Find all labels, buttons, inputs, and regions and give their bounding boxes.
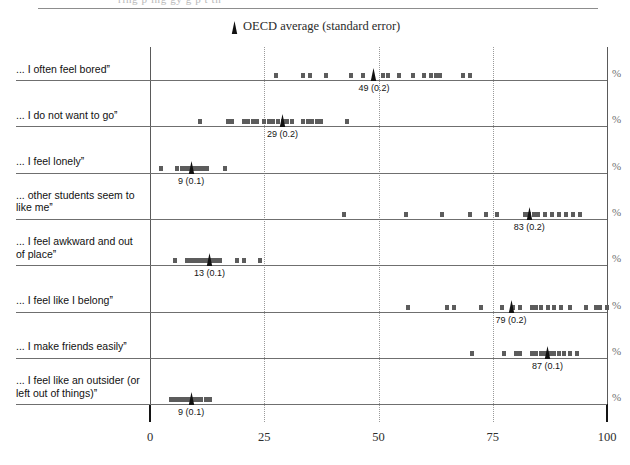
data-point: [310, 119, 314, 124]
unit-label-percent: %: [612, 67, 621, 79]
chart-legend: OECD average (standard error): [231, 19, 400, 34]
data-point: [564, 212, 568, 217]
row-label: ... I feel like an outsider (or left out…: [16, 374, 144, 399]
unit-label-percent: %: [612, 345, 621, 357]
data-point: [539, 305, 543, 310]
data-point: [495, 212, 499, 217]
row-label: ... I do not want to goˮ: [16, 109, 144, 122]
data-point: [349, 73, 353, 78]
data-point: [422, 73, 426, 78]
row-label: ... I feel lonelyˮ: [16, 155, 144, 168]
data-point: [578, 212, 582, 217]
axis-line-left: [150, 47, 151, 422]
oecd-average-label: 29 (0.2): [267, 129, 298, 139]
oecd-average-marker: [279, 113, 286, 126]
row-label: ... other students seem to like meˮ: [16, 189, 144, 214]
data-point: [550, 212, 554, 217]
data-point: [562, 351, 566, 356]
data-point: [411, 73, 415, 78]
data-point: [255, 119, 259, 124]
data-point: [258, 258, 262, 263]
data-point: [479, 305, 483, 310]
data-point: [518, 351, 522, 356]
data-point: [434, 73, 438, 78]
row-label: ... I often feel boredˮ: [16, 63, 144, 76]
data-point: [534, 351, 538, 356]
data-point: [546, 305, 550, 310]
data-point: [568, 305, 572, 310]
chart-page: ring p ing gy g p t th OECD average (sta…: [0, 0, 630, 465]
data-point: [594, 305, 598, 310]
data-point: [342, 212, 346, 217]
gridline-25: [264, 47, 266, 422]
data-point: [218, 258, 222, 263]
data-point: [319, 119, 323, 124]
axis-endcap-0: [149, 404, 151, 422]
data-point: [598, 305, 602, 310]
row-label: ... I make friends easilyˮ: [16, 340, 144, 353]
cropped-header-text-inner: ring p ing gy g p t th: [118, 0, 221, 5]
data-point: [429, 73, 433, 78]
data-point: [552, 305, 556, 310]
data-point: [568, 351, 572, 356]
legend-label: OECD average (standard error): [243, 19, 400, 34]
row-separator: [16, 219, 607, 220]
gridline-50: [379, 47, 381, 422]
data-point: [445, 305, 449, 310]
data-point: [208, 397, 212, 402]
data-point: [267, 119, 271, 124]
oecd-average-marker: [206, 252, 213, 265]
row-label: ... I feel awkward and out of placeˮ: [16, 235, 144, 260]
data-point: [246, 119, 250, 124]
data-point: [502, 351, 506, 356]
row-separator: [16, 265, 607, 266]
data-point: [461, 73, 465, 78]
data-point: [271, 119, 275, 124]
oecd-average-marker: [188, 160, 195, 173]
cropped-header-text: ring p ing gy g p t th: [118, 0, 618, 7]
data-point: [223, 166, 227, 171]
data-point: [306, 119, 310, 124]
x-tick-label-75: 75: [487, 430, 500, 445]
data-point: [175, 166, 179, 171]
data-point: [201, 166, 205, 171]
x-axis: 0255075100: [0, 422, 630, 452]
data-point: [397, 73, 401, 78]
data-point: [404, 212, 408, 217]
data-point: [605, 305, 609, 310]
data-point: [301, 73, 305, 78]
unit-label-percent: %: [612, 160, 621, 172]
data-point: [584, 305, 588, 310]
data-point: [290, 119, 294, 124]
data-point: [557, 212, 561, 217]
oecd-average-label: 13 (0.1): [194, 268, 225, 278]
oecd-average-label: 87 (0.1): [532, 361, 563, 371]
oecd-average-label: 49 (0.2): [358, 83, 389, 93]
data-point: [205, 166, 209, 171]
data-point: [484, 212, 488, 217]
data-point: [226, 119, 230, 124]
row-label: ... I feel like I belongˮ: [16, 294, 144, 307]
data-point: [198, 119, 202, 124]
oecd-average-marker: [188, 391, 195, 404]
data-point: [452, 305, 456, 310]
data-point: [381, 73, 385, 78]
oecd-average-marker: [526, 206, 533, 219]
unit-label-percent: %: [612, 113, 621, 125]
oecd-average-label: 83 (0.2): [514, 222, 545, 232]
row-separator: [16, 404, 607, 405]
oecd-average-label: 9 (0.1): [178, 407, 204, 417]
data-point: [361, 73, 365, 78]
triangle-marker-icon: [231, 21, 238, 34]
header-divider-rule: [38, 8, 598, 9]
data-point: [571, 212, 575, 217]
data-point: [500, 305, 504, 310]
data-point: [274, 73, 278, 78]
data-point: [552, 351, 556, 356]
data-point: [559, 305, 563, 310]
unit-label-percent: %: [612, 206, 621, 218]
data-point: [199, 397, 203, 402]
data-point: [438, 73, 442, 78]
data-point: [539, 351, 543, 356]
oecd-average-label: 79 (0.2): [496, 315, 527, 325]
